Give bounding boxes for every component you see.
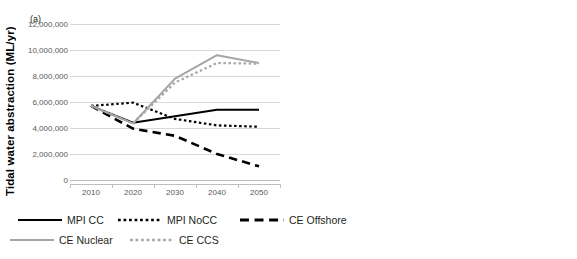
legend-item-ce-offshore[interactable]: CE Offshore [240, 210, 347, 230]
legend-label: CE Nuclear [59, 234, 113, 246]
legend-row-1: MPI CCMPI NoCCCE Offshore [0, 210, 577, 230]
legend-item-ce-ccs[interactable]: CE CCS [130, 230, 219, 250]
x-tick-label: 2010 [82, 188, 100, 197]
legend-line-swatch-icon [10, 234, 54, 246]
x-tick-mark [70, 184, 71, 188]
legend-line-swatch-icon [18, 214, 62, 226]
x-tick-mark [154, 184, 155, 188]
legend-label: CE Offshore [289, 214, 347, 226]
legend-line-swatch-icon [130, 234, 174, 246]
chart-panel-a: (a) Tidal water abstraction (ML/yr) 02,0… [0, 0, 289, 205]
x-tick-mark [238, 184, 239, 188]
legend-line-swatch-icon [118, 214, 162, 226]
legend-line-swatch-icon [240, 214, 284, 226]
y-tick-label: 0 [64, 176, 68, 185]
legend-item-ce-nuclear[interactable]: CE Nuclear [10, 230, 113, 250]
legend-item-mpi-nocc[interactable]: MPI NoCC [118, 210, 217, 230]
legend-label: MPI NoCC [167, 214, 217, 226]
gridline [70, 180, 280, 181]
legend-label: MPI CC [67, 214, 104, 226]
plot-area-a [70, 24, 280, 180]
x-tick-label: 2030 [166, 188, 184, 197]
legend-label: CE CCS [179, 234, 219, 246]
series-line-ce-ccs [91, 63, 259, 123]
x-tick-mark [196, 184, 197, 188]
series-line-ce-nuclear [91, 55, 259, 123]
x-axis-ticks-a: 20102020203020402050 [70, 184, 280, 198]
y-tick-label: 12,000,000 [28, 20, 68, 29]
legend-item-mpi-cc[interactable]: MPI CC [18, 210, 104, 230]
series-line-mpi-nocc [91, 103, 259, 127]
x-axis-line [70, 184, 280, 185]
x-tick-mark [280, 184, 281, 188]
y-tick-label: 4,000,000 [32, 124, 68, 133]
x-tick-mark [112, 184, 113, 188]
legend-row-2: CE NuclearCE CCS [0, 230, 577, 250]
x-tick-label: 2050 [250, 188, 268, 197]
y-tick-label: 2,000,000 [32, 150, 68, 159]
y-axis-ticks-a: 02,000,0004,000,0006,000,0008,000,00010,… [6, 24, 68, 180]
x-tick-label: 2020 [124, 188, 142, 197]
y-tick-label: 6,000,000 [32, 98, 68, 107]
chart-legend: MPI CCMPI NoCCCE Offshore CE NuclearCE C… [0, 206, 577, 259]
y-tick-label: 8,000,000 [32, 72, 68, 81]
series-lines-a [70, 24, 280, 180]
figure-root: (a) Tidal water abstraction (ML/yr) 02,0… [0, 0, 577, 259]
x-tick-label: 2040 [208, 188, 226, 197]
y-tick-label: 10,000,000 [28, 46, 68, 55]
chart-panel-b: (b) Tidal water consumption (ML/yr) 050,… [289, 0, 577, 205]
